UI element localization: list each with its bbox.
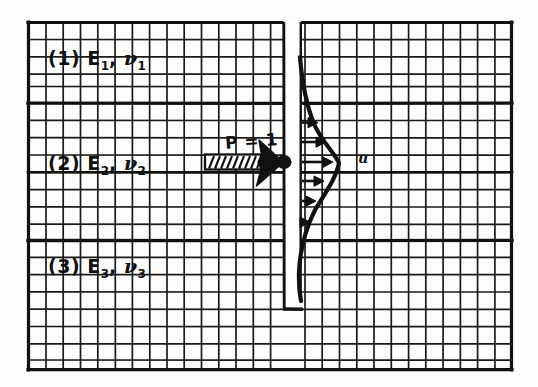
layer-1-poisson: ν [124,47,138,69]
layer-1-label: (1) E1, ν1 [48,47,146,73]
pile-soil-diagram: (1) E1, ν1 (2) E2, ν2 (3) E3, ν3 P = 1 u [0,0,538,387]
layer-1-poisson-subscript: 1 [138,59,146,73]
displacement-label: u [358,150,369,166]
layer-3-modulus: E [87,255,100,277]
layer-1-modulus-subscript: 1 [101,59,109,73]
layer-2-prefix: (2) [48,152,80,174]
layer-3-modulus-subscript: 3 [101,267,109,281]
layer-3-label: (3) E3, ν3 [48,255,146,281]
layer-2-poisson-subscript: 2 [138,164,146,178]
layer-2-label: (2) E2, ν2 [48,152,146,178]
load-label: P = 1 [224,129,278,153]
layer-2-modulus: E [87,152,100,174]
layer-3-poisson: ν [124,255,138,277]
layer-2-modulus-subscript: 2 [101,164,109,178]
layer-1-prefix: (1) [48,47,80,69]
layer-3-poisson-subscript: 3 [138,267,146,281]
layer-3-prefix: (3) [48,255,80,277]
layer-1-modulus: E [87,47,100,69]
layer-2-poisson: ν [124,152,138,174]
load-application-point [277,155,292,169]
